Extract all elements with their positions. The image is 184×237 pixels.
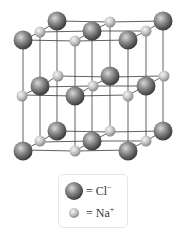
chloride-ion xyxy=(119,31,138,50)
chloride-sphere-icon xyxy=(63,180,87,202)
legend-item-sodium: = Na+ xyxy=(59,202,127,224)
sodium-ion xyxy=(35,27,46,38)
legend-item-chloride: = Cl− xyxy=(59,180,127,202)
sodium-ion xyxy=(88,81,99,92)
legend: = Cl− = Na+ xyxy=(58,174,128,228)
sodium-ion xyxy=(70,146,81,157)
sodium-ion xyxy=(123,91,134,102)
sodium-ion xyxy=(105,126,116,137)
chloride-ion xyxy=(154,12,173,31)
chloride-ion xyxy=(48,12,67,31)
chloride-ion xyxy=(83,22,102,41)
chloride-ion xyxy=(66,87,85,106)
chloride-ion xyxy=(137,77,156,96)
sodium-ion xyxy=(159,71,170,82)
chloride-ion xyxy=(48,122,67,141)
sodium-ion xyxy=(70,36,81,47)
nacl-lattice-diagram xyxy=(0,0,184,172)
chloride-ion xyxy=(83,132,102,151)
legend-label-sodium: = Na+ xyxy=(86,205,114,221)
sodium-ion xyxy=(105,17,116,28)
atoms xyxy=(14,12,173,161)
legend-label-chloride: = Cl− xyxy=(86,183,112,199)
chloride-ion xyxy=(14,31,33,50)
chloride-ion xyxy=(14,142,33,161)
chloride-ion xyxy=(154,122,173,141)
sodium-ion xyxy=(35,136,46,147)
chloride-ion xyxy=(101,67,120,86)
sodium-ion xyxy=(141,136,152,147)
chloride-ion xyxy=(31,77,50,96)
sodium-ion xyxy=(53,71,64,82)
sodium-ion xyxy=(17,91,28,102)
chloride-ion xyxy=(119,142,138,161)
sodium-sphere-icon xyxy=(63,202,87,224)
sodium-ion xyxy=(141,26,152,37)
